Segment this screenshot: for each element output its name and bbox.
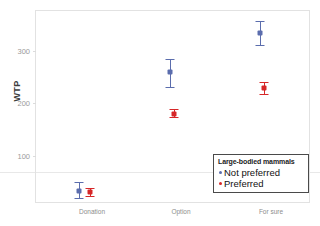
datapoint-preferred-donation [88, 190, 93, 195]
datapoint-notpreferred-donation [77, 189, 82, 194]
legend-item-not-preferred[interactable]: Not preferred [218, 167, 303, 178]
y-tick-label-300: 300 [0, 47, 30, 56]
legend-item-preferred[interactable]: Preferred [218, 178, 303, 189]
y-tick-mark-100 [33, 156, 36, 157]
errorbar-cap-bottom-notpreferred-option [166, 87, 175, 88]
datapoint-notpreferred-forsure [258, 31, 263, 36]
datapoint-preferred-option [172, 112, 177, 117]
y-tick-mark-200 [33, 103, 36, 104]
errorbar-cap-bottom-notpreferred-donation [75, 198, 84, 199]
errorbar-cap-bottom-preferred-donation [86, 196, 95, 197]
errorbar-cap-bottom-preferred-forsure [260, 94, 269, 95]
errorbar-cap-top-preferred-forsure [260, 82, 269, 83]
y-tick-mark-300 [33, 51, 36, 52]
legend-label-preferred: Preferred [224, 178, 264, 189]
errorbar-cap-top-notpreferred-forsure [256, 21, 265, 22]
datapoint-notpreferred-option [168, 70, 173, 75]
errorbar-cap-bottom-preferred-option [170, 117, 179, 118]
chart-figure: WTP 300 200 100 [0, 0, 320, 226]
x-tick-label-donation: Donation [79, 208, 105, 215]
legend-marker-icon-not-preferred [219, 171, 222, 174]
y-tick-label-100: 100 [0, 152, 30, 161]
errorbar-cap-top-preferred-option [170, 109, 179, 110]
legend-title: Large-bodied mammals [218, 158, 303, 165]
errorbar-cap-top-notpreferred-option [166, 59, 175, 60]
legend-label-not-preferred: Not preferred [224, 167, 280, 178]
x-tick-label-option: Option [171, 208, 190, 215]
legend: Large-bodied mammals Not preferred Prefe… [213, 154, 309, 193]
datapoint-preferred-forsure [262, 86, 267, 91]
errorbar-cap-bottom-notpreferred-forsure [256, 45, 265, 46]
x-tick-label-forsure: For sure [259, 208, 283, 215]
plot-area: 300 200 100 [35, 10, 310, 203]
y-tick-label-200: 200 [0, 99, 30, 108]
legend-marker-icon-preferred [219, 182, 222, 185]
errorbar-cap-top-notpreferred-donation [75, 182, 84, 183]
